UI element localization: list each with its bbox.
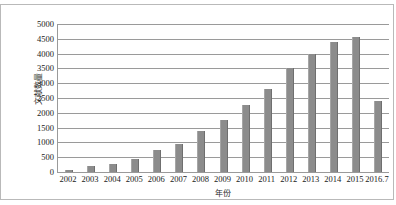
y-axis-tick-label: 5000 [21,20,54,28]
y-axis-tick-label: 1000 [21,138,54,146]
bar [197,131,205,172]
bar [65,170,73,172]
bar [175,144,183,172]
bar [374,101,382,172]
bar-series [58,24,389,172]
x-axis-title: 年份 [57,187,388,198]
plot-area [57,24,389,173]
bar [330,42,338,172]
bar [352,37,360,172]
y-axis-tick-label: 1500 [21,124,54,132]
y-axis-tick-label: 4500 [21,35,54,43]
chart-frame: 0500100015002000250030003500400045005000… [0,4,394,200]
y-axis-tick-label: 500 [21,153,54,161]
bar [109,164,117,172]
bar [220,120,228,172]
x-axis-tick-labels: 2002200320042005200620072008200920102011… [57,174,388,188]
bar [286,68,294,172]
bar [131,159,139,172]
bar [242,105,250,172]
bar [87,166,95,172]
y-axis-tick-label: 4000 [21,50,54,58]
bar [264,89,272,172]
bar [153,150,161,172]
y-axis-tick-label: 0 [21,168,54,176]
bar [308,54,316,172]
x-axis-tick-label: 2016.7 [362,174,392,184]
y-axis-title: 文献数量 [32,59,43,119]
